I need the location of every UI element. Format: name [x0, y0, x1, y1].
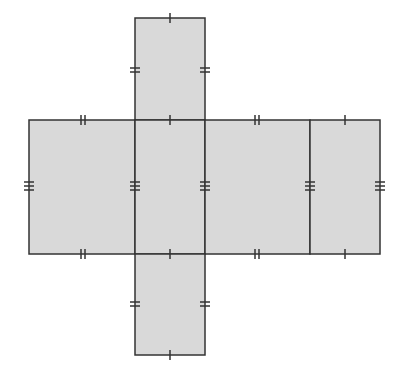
- prism-net-diagram: [0, 0, 394, 378]
- face-bottom: [135, 254, 205, 355]
- face-left: [29, 120, 135, 254]
- face-top: [135, 18, 205, 120]
- face-back: [310, 120, 380, 254]
- face-front: [135, 120, 205, 254]
- face-right: [205, 120, 310, 254]
